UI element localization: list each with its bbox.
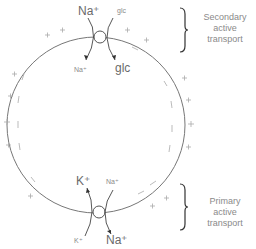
k-plus-inside-label: K⁺ (76, 175, 90, 187)
primary-line-2: active (194, 207, 256, 218)
symporter-protein (94, 31, 106, 43)
primary-line-1: Primary (194, 196, 256, 207)
secondary-brace (180, 8, 188, 52)
primary-brace (180, 184, 188, 230)
primary-active-transport-label: Primary active transport (194, 196, 256, 229)
na-inside-bottom-label: Na⁺ (106, 178, 119, 185)
cell-membrane-outer (7, 37, 185, 213)
glc-inside-label: glc (115, 62, 130, 74)
na-plus-top-label: Na⁺ (78, 5, 99, 17)
primary-line-3: transport (194, 218, 256, 229)
na-plus-outside-label: Na⁺ (106, 234, 127, 246)
secondary-line-3: transport (194, 34, 256, 45)
secondary-line-1: Secondary (194, 12, 256, 23)
secondary-line-2: active (194, 23, 256, 34)
secondary-active-transport-label: Secondary active transport (194, 12, 256, 45)
charge-marks (4, 28, 194, 209)
glc-top-label: glc (117, 7, 126, 14)
k-outside-label: K⁺ (74, 237, 83, 244)
na-flow-arrow (86, 18, 94, 60)
na-k-pump-protein (93, 206, 105, 218)
na-inside-label: Na⁺ (74, 66, 87, 73)
